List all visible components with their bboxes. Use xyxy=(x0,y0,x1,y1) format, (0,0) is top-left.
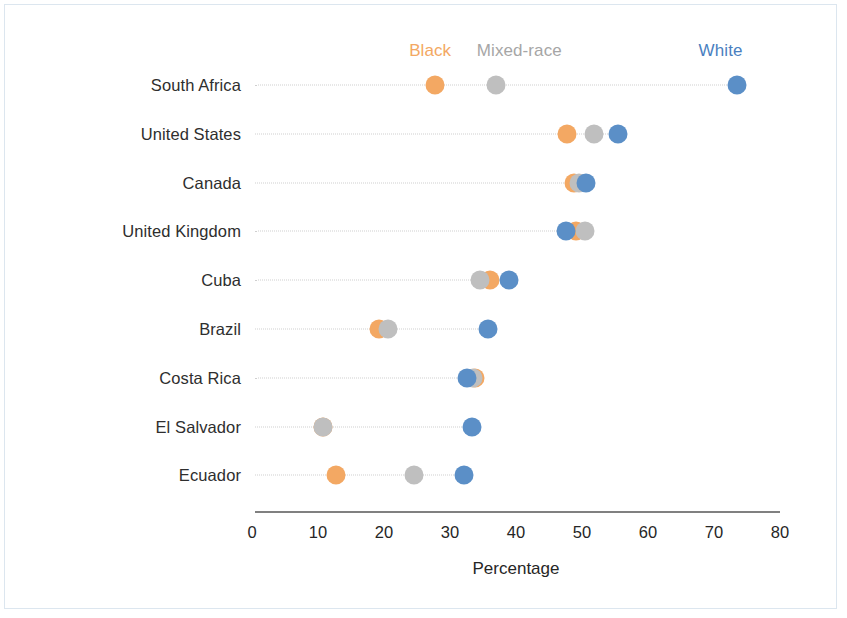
category-label: South Africa xyxy=(151,76,241,95)
data-point-black[interactable] xyxy=(425,76,444,95)
x-axis-title: Percentage xyxy=(473,559,560,579)
data-point-white[interactable] xyxy=(479,320,498,339)
row-connector-line xyxy=(255,231,585,232)
data-point-white[interactable] xyxy=(728,76,747,95)
row-connector-line xyxy=(255,182,586,183)
category-label: United Kingdom xyxy=(122,222,241,241)
data-point-mixed-race[interactable] xyxy=(584,124,603,143)
data-point-mixed-race[interactable] xyxy=(470,271,489,290)
x-axis-tick-label: 80 xyxy=(771,523,789,542)
x-axis-tick-label: 10 xyxy=(309,523,327,542)
category-label: Ecuador xyxy=(179,466,241,485)
category-label: United States xyxy=(141,124,241,143)
dot-plot-chart: BlackMixed-raceWhite South AfricaUnited … xyxy=(5,5,838,610)
row-connector-line xyxy=(255,377,475,378)
data-point-black[interactable] xyxy=(557,124,576,143)
data-point-white[interactable] xyxy=(557,222,576,241)
data-point-white[interactable] xyxy=(462,417,481,436)
data-point-white[interactable] xyxy=(457,368,476,387)
x-axis-tick-label: 40 xyxy=(507,523,525,542)
row-connector-line xyxy=(255,426,472,427)
row-connector-line xyxy=(255,475,464,476)
data-point-white[interactable] xyxy=(499,271,518,290)
data-point-mixed-race[interactable] xyxy=(487,76,506,95)
data-point-white[interactable] xyxy=(609,124,628,143)
category-label: Costa Rica xyxy=(159,368,241,387)
data-point-mixed-race[interactable] xyxy=(378,320,397,339)
x-axis-tick-label: 60 xyxy=(639,523,657,542)
x-axis-tick-label: 20 xyxy=(375,523,393,542)
data-point-white[interactable] xyxy=(454,466,473,485)
x-axis-line xyxy=(255,511,780,513)
data-point-black[interactable] xyxy=(326,466,345,485)
data-point-mixed-race[interactable] xyxy=(314,417,333,436)
x-axis-tick-label: 50 xyxy=(573,523,591,542)
category-label: Brazil xyxy=(199,320,241,339)
chart-frame: BlackMixed-raceWhite South AfricaUnited … xyxy=(4,4,837,609)
data-point-white[interactable] xyxy=(576,173,595,192)
x-axis-tick-label: 30 xyxy=(441,523,459,542)
data-point-mixed-race[interactable] xyxy=(576,222,595,241)
legend-label-mixed-race: Mixed-race xyxy=(477,41,562,61)
x-axis-tick-label: 0 xyxy=(247,523,256,542)
legend-label-white: White xyxy=(699,41,743,61)
category-label: Cuba xyxy=(201,271,241,290)
data-point-mixed-race[interactable] xyxy=(404,466,423,485)
category-label: Canada xyxy=(183,173,241,192)
legend-label-black: Black xyxy=(409,41,451,61)
category-label: El Salvador xyxy=(156,417,241,436)
x-axis-tick-label: 70 xyxy=(705,523,723,542)
